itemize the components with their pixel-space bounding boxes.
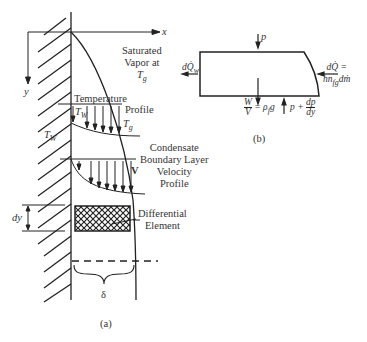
weight-label: W V = ρfg [244,98,275,117]
profile-label: Profile [125,104,154,116]
differential-element [75,206,130,231]
dy-label: dy [12,212,22,224]
caption-b: (b) [253,133,265,145]
pressure-top-label: p [261,31,266,43]
heat-in-label: dQ̇ = hnfgdṁ [323,61,350,89]
tw-profile-label: TW [75,106,88,122]
pressure-bottom-label: p + dp dy [290,98,315,117]
dy-markers [22,205,65,231]
wall-temp-label: TW [44,129,57,145]
x-axis-label: x [162,26,167,38]
delta-label: δ [101,289,106,301]
control-volume [200,52,319,96]
y-axis-label: y [24,86,29,98]
velocity-symbol: V [131,165,139,177]
differential-element-label: Differential Element [138,208,187,232]
caption-a: (a) [100,318,112,330]
temperature-label: Temperature [74,93,127,105]
velocity-profile-label: Condensate Boundary Layer Velocity Profi… [140,142,209,190]
delta-brace [74,265,134,284]
saturated-vapor-label: Saturated Vapor at Tg [122,45,162,85]
wall [38,12,71,302]
heat-out-label: dQ̇w [182,61,199,77]
tg-profile-label: Tg [123,118,133,134]
